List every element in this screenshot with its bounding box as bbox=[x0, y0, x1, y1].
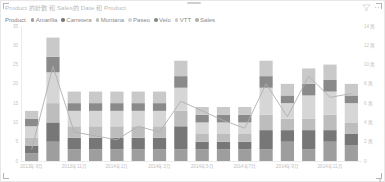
bar-segment[interactable] bbox=[46, 38, 59, 57]
legend-item-amarilla[interactable]: Amarilla bbox=[31, 17, 58, 23]
bar-segment[interactable] bbox=[174, 149, 187, 161]
bar-segment[interactable] bbox=[68, 103, 81, 111]
bar-segment[interactable] bbox=[323, 130, 336, 142]
bar-segment[interactable] bbox=[217, 134, 230, 142]
bar-segment[interactable] bbox=[110, 103, 123, 111]
bar-segment[interactable] bbox=[345, 134, 358, 146]
drag-handle[interactable] bbox=[187, 2, 201, 4]
bar-segment[interactable] bbox=[89, 103, 102, 111]
bar-segment[interactable] bbox=[89, 138, 102, 150]
bar-segment[interactable] bbox=[323, 142, 336, 161]
bar-segment[interactable] bbox=[238, 149, 251, 161]
bar-segment[interactable] bbox=[259, 149, 272, 161]
bar-segment[interactable] bbox=[196, 115, 209, 123]
bar-segment[interactable] bbox=[217, 142, 230, 150]
y2-axis-tick-label: 0 bbox=[364, 159, 367, 164]
bar-segment[interactable] bbox=[174, 61, 187, 76]
bar-segment[interactable] bbox=[302, 130, 315, 149]
bar-segment[interactable] bbox=[68, 92, 81, 104]
bar-segment[interactable] bbox=[345, 122, 358, 134]
bar-segment[interactable] bbox=[259, 61, 272, 76]
bar-segment[interactable] bbox=[25, 111, 38, 119]
bar-segment[interactable] bbox=[110, 126, 123, 138]
chart-legend: Product Amarilla Carretera Montana Paseo… bbox=[5, 15, 215, 25]
legend-item-montana[interactable]: Montana bbox=[96, 17, 124, 23]
bar-segment[interactable] bbox=[238, 142, 251, 150]
bar-segment[interactable] bbox=[25, 138, 38, 146]
bar-segment[interactable] bbox=[345, 146, 358, 161]
bar-segment[interactable] bbox=[153, 138, 166, 150]
legend-item-label: Sales bbox=[200, 17, 215, 23]
bar-segment[interactable] bbox=[25, 153, 38, 161]
bar-segment[interactable] bbox=[259, 76, 272, 88]
bar-segment[interactable] bbox=[89, 92, 102, 104]
bar-segment[interactable] bbox=[25, 119, 38, 127]
bar-segment[interactable] bbox=[259, 115, 272, 130]
bar-segment[interactable] bbox=[345, 103, 358, 122]
power-bi-visual-container[interactable]: Product 的計數 和 Sales的 Date 和 Product Prod… bbox=[0, 0, 385, 182]
bar-segment[interactable] bbox=[89, 149, 102, 161]
legend-item-vtt[interactable]: VTT bbox=[175, 17, 191, 23]
bar-segment[interactable] bbox=[196, 142, 209, 150]
bar-segment[interactable] bbox=[174, 111, 187, 126]
bar-segment[interactable] bbox=[323, 92, 336, 115]
bar-segment[interactable] bbox=[132, 103, 145, 111]
bar-segment[interactable] bbox=[46, 122, 59, 141]
visual-header-icons bbox=[362, 4, 383, 11]
bar-segment[interactable] bbox=[132, 92, 145, 104]
bar-segment[interactable] bbox=[281, 119, 294, 131]
bar-segment[interactable] bbox=[174, 126, 187, 149]
filter-icon[interactable] bbox=[362, 4, 371, 11]
bar-segment[interactable] bbox=[323, 80, 336, 92]
bar-segment[interactable] bbox=[132, 138, 145, 150]
bar-segment[interactable] bbox=[323, 115, 336, 130]
bar-segment[interactable] bbox=[217, 107, 230, 115]
bar-segment[interactable] bbox=[132, 149, 145, 161]
bar-segment[interactable] bbox=[302, 95, 315, 118]
legend-item-carretera[interactable]: Carretera bbox=[61, 17, 91, 23]
bar-segment[interactable] bbox=[89, 111, 102, 126]
x-axis-tick-label: 2014年1月 bbox=[106, 163, 129, 169]
more-options-icon[interactable] bbox=[374, 4, 383, 11]
bar-segment[interactable] bbox=[217, 149, 230, 161]
bar-segment[interactable] bbox=[196, 122, 209, 134]
bar-segment[interactable] bbox=[281, 84, 294, 96]
bar-segment[interactable] bbox=[259, 130, 272, 149]
bar-segment[interactable] bbox=[46, 103, 59, 122]
bar-segment[interactable] bbox=[46, 72, 59, 103]
bar-segment[interactable] bbox=[281, 142, 294, 161]
bar-segment[interactable] bbox=[110, 149, 123, 161]
bar-segment[interactable] bbox=[110, 111, 123, 126]
legend-item-sales[interactable]: Sales bbox=[195, 17, 215, 23]
bar-segment[interactable] bbox=[68, 149, 81, 161]
bar-segment[interactable] bbox=[110, 92, 123, 104]
bar-segment[interactable] bbox=[153, 149, 166, 161]
bar-segment[interactable] bbox=[153, 111, 166, 126]
bar-segment[interactable] bbox=[345, 95, 358, 103]
bar-segment[interactable] bbox=[238, 107, 251, 115]
bar-segment[interactable] bbox=[238, 134, 251, 142]
bar-segment[interactable] bbox=[196, 149, 209, 161]
legend-item-velo[interactable]: Velo bbox=[154, 17, 171, 23]
bar-segment[interactable] bbox=[132, 126, 145, 138]
bar-segment[interactable] bbox=[153, 92, 166, 104]
y-axis-left: 05101520253035 bbox=[1, 26, 21, 161]
bar-segment[interactable] bbox=[153, 103, 166, 111]
bar-segment[interactable] bbox=[302, 149, 315, 161]
resize-grip[interactable] bbox=[374, 171, 381, 178]
bar-segment[interactable] bbox=[46, 142, 59, 161]
bar-segment[interactable] bbox=[217, 122, 230, 134]
bar-segment[interactable] bbox=[132, 111, 145, 126]
legend-swatch bbox=[154, 18, 158, 22]
bar-segment[interactable] bbox=[302, 119, 315, 131]
bar-segment[interactable] bbox=[174, 76, 187, 88]
bar-segment[interactable] bbox=[46, 57, 59, 72]
y2-axis-tick-label: 12 萬 bbox=[364, 43, 375, 48]
legend-item-paseo[interactable]: Paseo bbox=[128, 17, 150, 23]
bar-segment[interactable] bbox=[281, 130, 294, 142]
bar-segment[interactable] bbox=[68, 138, 81, 150]
chart-canvas[interactable] bbox=[21, 26, 362, 161]
bar-segment[interactable] bbox=[281, 95, 294, 103]
bar-segment[interactable] bbox=[196, 134, 209, 142]
bar-segment[interactable] bbox=[323, 65, 336, 80]
